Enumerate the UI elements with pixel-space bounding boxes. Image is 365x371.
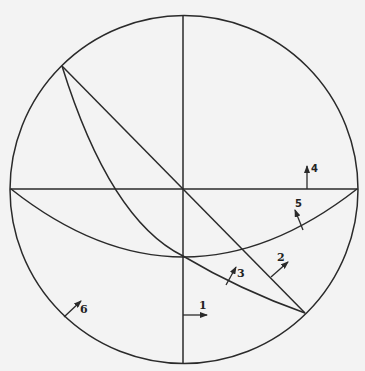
diagram: 1 2 3 4 5 6 [0, 0, 365, 371]
label-6: 6 [80, 304, 88, 315]
great-circle-5 [11, 189, 357, 257]
diagram-graphic [0, 0, 365, 371]
label-5: 5 [295, 199, 302, 209]
label-2: 2 [277, 252, 285, 263]
arrow-6 [64, 301, 81, 317]
label-1: 1 [199, 300, 207, 311]
arrow-2 [271, 262, 288, 277]
label-4: 4 [311, 164, 318, 174]
label-3: 3 [237, 268, 245, 279]
